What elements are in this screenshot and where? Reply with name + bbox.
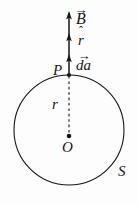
b-accent-stack: → B <box>76 11 86 27</box>
label-radius-r: r <box>52 97 58 112</box>
label-surface-s: S <box>118 164 126 179</box>
rhat-accent-stack: ˆ r <box>78 33 84 48</box>
physics-figure: → B ˆ r → da P r O S <box>0 0 138 204</box>
label-point-p: P <box>53 63 62 78</box>
label-magnetic-field-b: → B <box>76 11 86 27</box>
rhat-symbol: r <box>78 32 84 48</box>
label-area-element-da: → da <box>76 58 91 73</box>
da-accent-stack: → da <box>76 58 91 73</box>
da-symbol: da <box>76 57 91 73</box>
label-unit-radial-rhat: ˆ r <box>78 33 84 48</box>
label-center-o: O <box>62 140 73 155</box>
b-symbol: B <box>76 10 86 27</box>
center-point-dot <box>67 134 72 139</box>
